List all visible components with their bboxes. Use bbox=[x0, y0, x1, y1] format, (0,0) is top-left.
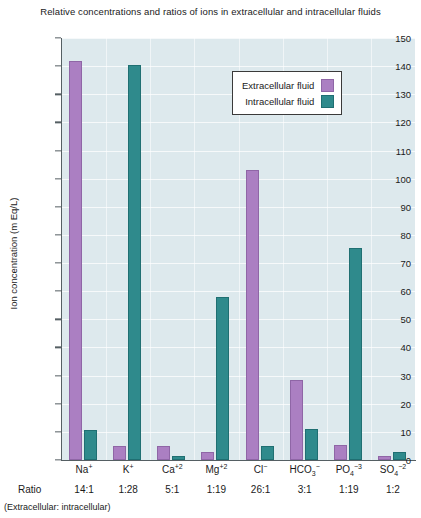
y-axis-tick-mark bbox=[55, 459, 61, 460]
bar-intracellular[interactable] bbox=[349, 248, 362, 460]
bar-extracellular[interactable] bbox=[290, 380, 303, 460]
y-axis-tick-mark bbox=[55, 403, 61, 404]
y-axis-tick-mark bbox=[55, 65, 61, 66]
bar-group bbox=[106, 38, 150, 460]
y-axis-title: Ion concentration (m Eq/L) bbox=[8, 94, 19, 414]
y-axis-tick-mark bbox=[55, 206, 61, 207]
bar-extracellular[interactable] bbox=[201, 452, 214, 460]
y-axis-tick-mark bbox=[55, 262, 61, 263]
bar-intracellular[interactable] bbox=[128, 65, 141, 460]
bar-intracellular[interactable] bbox=[261, 446, 274, 460]
ratio-value: 1:2 bbox=[363, 484, 421, 495]
y-axis-tick-mark bbox=[55, 347, 61, 348]
bar-intracellular[interactable] bbox=[216, 297, 229, 460]
y-axis-tick-mark bbox=[55, 291, 61, 292]
legend-item-intracellular: Intracellular fluid bbox=[242, 93, 334, 109]
chart-root: Relative concentrations and ratios of io… bbox=[0, 0, 421, 518]
bar-group bbox=[62, 38, 106, 460]
y-axis-tick-mark bbox=[55, 178, 61, 179]
bar-extracellular[interactable] bbox=[334, 445, 347, 460]
bar-extracellular[interactable] bbox=[246, 170, 259, 460]
legend: Extracellular fluid Intracellular fluid bbox=[232, 71, 342, 115]
legend-swatch-intracellular bbox=[321, 95, 334, 108]
legend-label-extracellular: Extracellular fluid bbox=[242, 80, 314, 91]
y-axis-tick-mark bbox=[55, 431, 61, 432]
bar-intracellular[interactable] bbox=[393, 452, 406, 460]
x-axis-line bbox=[61, 460, 416, 461]
bar-intracellular[interactable] bbox=[305, 429, 318, 460]
y-axis-tick-mark bbox=[55, 122, 61, 123]
ratio-row-label: Ratio bbox=[18, 484, 41, 495]
x-axis-labels: Na+K+Ca+2Mg+2Cl−HCO3−PO4−3SO4−2 bbox=[62, 463, 415, 483]
y-axis-tick-mark bbox=[55, 375, 61, 376]
bar-extracellular[interactable] bbox=[69, 61, 82, 460]
bar-intracellular[interactable] bbox=[84, 430, 97, 460]
ratio-note: (Extracellular: intracellular) bbox=[4, 502, 111, 512]
y-axis-tick-mark bbox=[55, 319, 61, 320]
y-axis-tick-mark bbox=[55, 150, 61, 151]
bar-group bbox=[150, 38, 194, 460]
ratio-values: 14:11:285:11:1926:13:11:191:2 bbox=[62, 484, 415, 502]
bar-extracellular[interactable] bbox=[157, 446, 170, 460]
legend-label-intracellular: Intracellular fluid bbox=[245, 96, 314, 107]
bar-intracellular[interactable] bbox=[172, 456, 185, 460]
y-axis-tick-mark bbox=[55, 234, 61, 235]
legend-item-extracellular: Extracellular fluid bbox=[242, 77, 334, 93]
bar-extracellular[interactable] bbox=[378, 456, 391, 460]
x-axis-tick-label: SO4−2 bbox=[363, 463, 421, 477]
chart-title: Relative concentrations and ratios of io… bbox=[0, 6, 421, 17]
legend-swatch-extracellular bbox=[321, 79, 334, 92]
y-axis-tick-mark bbox=[55, 37, 61, 38]
bar-group bbox=[371, 38, 415, 460]
bar-extracellular[interactable] bbox=[113, 446, 126, 460]
y-axis-tick-mark bbox=[55, 94, 61, 95]
